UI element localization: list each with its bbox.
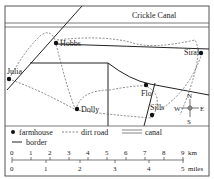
svg-text:1: 1 [29, 149, 33, 157]
label-flo: Flo [141, 89, 152, 98]
svg-text:1: 1 [44, 165, 48, 173]
svg-text:7: 7 [143, 149, 147, 157]
label-julia: Julia [7, 67, 23, 76]
svg-text:2: 2 [78, 165, 82, 173]
legend-border: border [26, 138, 47, 147]
farmhouse-dolly [75, 107, 79, 111]
label-siral: Siral [184, 48, 200, 57]
svg-text:0: 0 [10, 165, 14, 173]
legend-dirt-road: dirt road [81, 128, 108, 137]
svg-text:8: 8 [162, 149, 166, 157]
svg-text:S: S [187, 118, 191, 126]
farmhouse-legend-icon [11, 130, 15, 134]
svg-text:km: km [188, 149, 198, 157]
svg-text:5: 5 [105, 149, 109, 157]
svg-text:E: E [200, 105, 204, 113]
legend-canal: canal [145, 128, 163, 137]
svg-text:miles: miles [188, 165, 203, 173]
svg-text:4: 4 [147, 165, 151, 173]
canal-label: Crickle Canal [132, 11, 177, 20]
svg-text:W: W [174, 105, 181, 113]
svg-text:3: 3 [113, 165, 117, 173]
map: Crickle Canal Hobbs Julia Siral Dolly Fl… [0, 0, 214, 179]
svg-text:N: N [187, 92, 192, 100]
svg-text:9: 9 [181, 149, 185, 157]
svg-text:3: 3 [67, 149, 71, 157]
farmhouse-hobbs [54, 41, 58, 45]
svg-text:2: 2 [48, 149, 52, 157]
label-hobbs: Hobbs [60, 39, 81, 48]
label-dolly: Dolly [81, 105, 99, 114]
farmhouse-julia [7, 77, 11, 81]
farmhouse-sills [150, 113, 154, 117]
svg-text:6: 6 [124, 149, 128, 157]
legend-farmhouse: farmhouse [19, 128, 53, 137]
label-sills: Sills [150, 103, 164, 112]
farmhouse-siral [199, 51, 203, 55]
farmhouse-flo [144, 83, 148, 87]
svg-text:5: 5 [181, 165, 185, 173]
svg-text:4: 4 [86, 149, 90, 157]
svg-text:0: 0 [10, 149, 14, 157]
